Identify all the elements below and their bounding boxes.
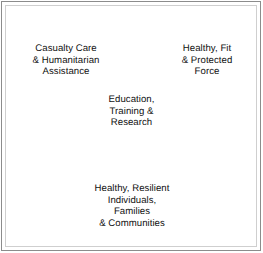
venn-diagram-canvas	[0, 0, 263, 253]
venn-diagram-figure: Casualty Care & Humanitarian Assistance …	[0, 0, 263, 253]
